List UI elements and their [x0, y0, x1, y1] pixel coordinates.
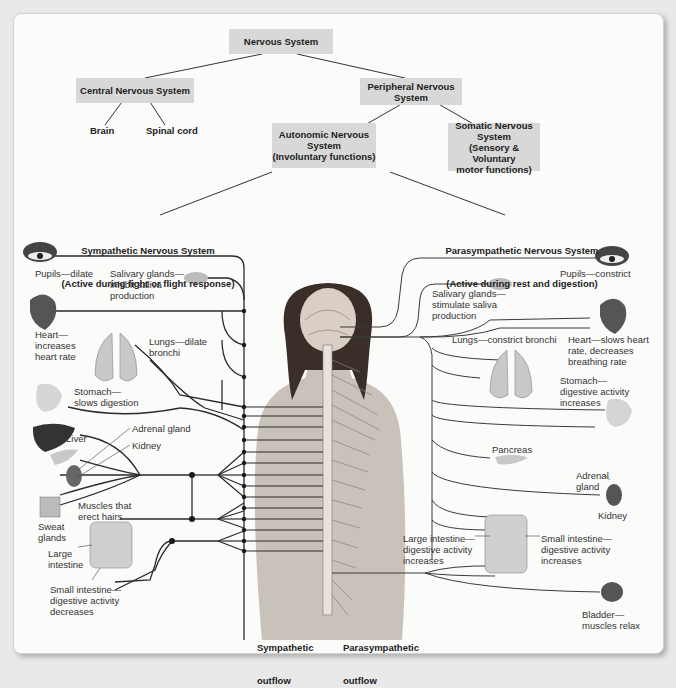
parasympathetic-outflow-line1: Parasympathetic [343, 642, 419, 653]
sympathetic-chain-fan [218, 452, 244, 551]
autonomic-label-line2: System [307, 140, 341, 151]
somatic-label-line1: Somatic Nervous [455, 120, 533, 131]
para-large-intestine-label: Large intestine— digestive activity incr… [403, 533, 475, 566]
symp-adrenal-label: Adrenal gland [132, 423, 191, 434]
symp-small-intestine-label: Small intestine— digestive activity decr… [50, 584, 121, 617]
para-bladder-label: Bladder— muscles relax [582, 609, 640, 631]
para-small-intestine-label: Small intestine— digestive activity incr… [541, 533, 612, 566]
sympathetic-outflow-line2: outflow [257, 675, 314, 686]
sympathetic-title-text: Sympathetic Nervous System [58, 245, 238, 256]
heart-icon-right [600, 299, 626, 334]
para-heart-label: Heart—slows heart rate, decreases breath… [568, 334, 649, 367]
symp-kidney-label: Kidney [132, 440, 161, 451]
para-stomach-label: Stomach— digestive activity increases [560, 375, 629, 408]
parasympathetic-outflow-line2: outflow [343, 675, 419, 686]
parasympathetic-outflow-label: Parasympathetic outflow [343, 620, 419, 688]
cns-label: Central Nervous System [80, 85, 190, 96]
pns-box: Peripheral Nervous System [360, 78, 462, 105]
pancreas-icon-left [50, 450, 78, 465]
para-lungs-label: Lungs—constrict bronchi [452, 334, 557, 345]
brain-label: Brain [90, 125, 114, 136]
symp-salivary-label: Salivary glands— inhibit saliva producti… [110, 268, 184, 301]
sympathetic-outflow-label: Sympathetic outflow [257, 620, 314, 688]
nervous-system-box: Nervous System [229, 29, 333, 54]
symp-sweat-glands-label: Sweat glands [38, 521, 66, 543]
lungs-icon-left [95, 333, 137, 381]
intestines-icon-left [90, 522, 132, 568]
parasympathetic-title-text: Parasympathetic Nervous System [437, 245, 607, 256]
stomach-icon-left [36, 384, 62, 412]
heart-icon-left [30, 294, 56, 330]
lungs-icon-right [490, 350, 532, 398]
intestines-icon-right [485, 515, 527, 573]
somatic-label-line2: System [477, 131, 511, 142]
bladder-icon [601, 582, 623, 602]
symp-stomach-label: Stomach— slows digestion [74, 386, 138, 408]
para-adrenal-label: Adrenal gland [576, 470, 609, 492]
somatic-box: Somatic Nervous System (Sensory & Volunt… [448, 123, 540, 171]
spinal-cord-label: Spinal cord [146, 125, 198, 136]
somatic-label-line4: motor functions) [456, 164, 531, 175]
pns-label-line1: Peripheral Nervous [367, 81, 454, 92]
cns-box: Central Nervous System [76, 78, 194, 103]
somatic-label-line3: (Sensory & Voluntary [448, 142, 540, 164]
para-pupils-label: Pupils—constrict [560, 268, 631, 279]
symp-hair-muscles-label: Muscles that erect hairs [78, 500, 131, 522]
para-kidney-label: Kidney [598, 510, 627, 521]
para-salivary-label: Salivary glands— stimulate saliva produc… [432, 288, 506, 321]
autonomic-label-line3: (Involuntary functions) [273, 151, 376, 162]
eye-icon-left [23, 242, 57, 262]
autonomic-label-line1: Autonomic Nervous [279, 129, 369, 140]
pancreas-icon-right [495, 455, 528, 465]
para-pancreas-label: Pancreas [492, 444, 532, 455]
symp-lungs-label: Lungs—dilate bronchi [149, 336, 207, 358]
symp-pupils-label: Pupils—dilate [35, 268, 93, 279]
nervous-system-label: Nervous System [244, 36, 318, 47]
autonomic-box: Autonomic Nervous System (Involuntary fu… [272, 123, 376, 168]
symp-heart-label: Heart— increases heart rate [35, 329, 76, 362]
sympathetic-outflow-line1: Sympathetic [257, 642, 314, 653]
pns-label-line2: System [394, 92, 428, 103]
skin-hair-icon [40, 497, 60, 517]
symp-large-intestine-label: Large intestine [48, 548, 83, 570]
symp-liver-label: Liver [66, 433, 87, 444]
